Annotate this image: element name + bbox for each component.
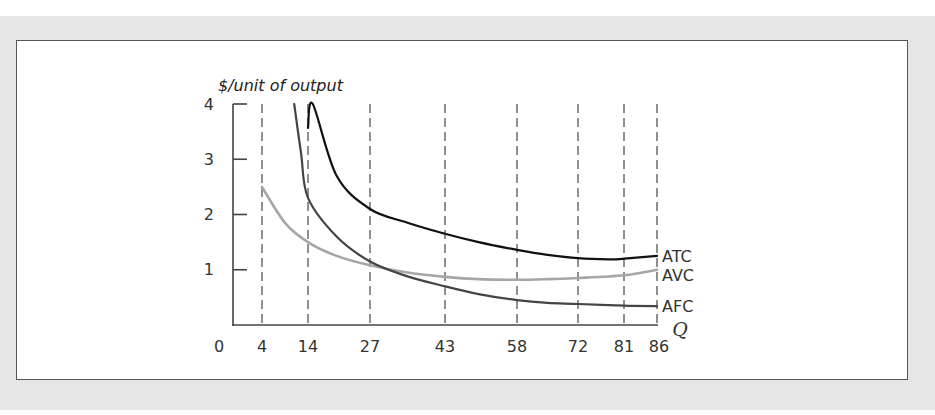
x-tick-label-58: 58 (507, 337, 527, 356)
avc-curve (262, 187, 657, 280)
x-tick-label-0: 0 (214, 337, 224, 356)
legend-atc: ATC (662, 247, 692, 266)
x-tick-label-72: 72 (568, 337, 588, 356)
atc-curve (308, 103, 657, 260)
x-tick-label-4: 4 (257, 337, 267, 356)
legend-afc: AFC (662, 297, 693, 316)
dashed-reference-lines (262, 104, 657, 325)
y-tick-label-3: 3 (204, 150, 214, 169)
y-axis-ticks (233, 104, 247, 270)
x-tick-label-27: 27 (360, 337, 380, 356)
x-tick-label-86: 86 (649, 337, 669, 356)
y-tick-label-2: 2 (204, 205, 214, 224)
y-tick-label-4: 4 (204, 95, 214, 114)
x-tick-label-43: 43 (435, 337, 455, 356)
cost-curves-chart: $/unit of output 4 3 2 1 0 4 14 27 43 58… (0, 0, 935, 415)
x-tick-label-14: 14 (298, 337, 318, 356)
legend-avc: AVC (662, 266, 694, 285)
x-tick-label-81: 81 (614, 337, 634, 356)
x-axis-title: Q (672, 318, 688, 340)
y-axis-title: $/unit of output (218, 76, 344, 95)
y-tick-label-1: 1 (204, 260, 214, 279)
curves (262, 103, 657, 307)
